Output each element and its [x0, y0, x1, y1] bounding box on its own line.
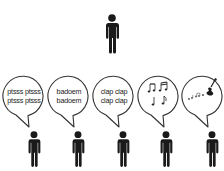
- person-5-icon: [203, 131, 221, 171]
- bubble-2-line1: badoem: [49, 87, 89, 96]
- bubble-3-line1: clap clap: [94, 87, 134, 96]
- speech-bubble-3: clap clap clap clap: [92, 75, 136, 129]
- speech-bubble-5: [181, 75, 224, 129]
- person-2-icon: [69, 131, 87, 171]
- speech-bubble-2: badoem badoem: [47, 75, 91, 129]
- bubble-1-line1: ptsss ptsss: [4, 87, 44, 96]
- bubble-3-text: clap clap clap clap: [94, 87, 134, 105]
- person-1-icon: [25, 131, 43, 171]
- person-3-icon: [114, 131, 132, 171]
- person-4-icon: [157, 131, 175, 171]
- top-person-icon: [103, 14, 121, 62]
- bubble-1-text: ptsss ptsss ptsss ptsss: [4, 87, 44, 105]
- bubble-2-text: badoem badoem: [49, 87, 89, 105]
- speech-bubble-1: ptsss ptsss ptsss ptsss: [2, 75, 46, 129]
- bubble-1-line2: ptsss ptsss: [4, 96, 44, 105]
- bubble-2-line2: badoem: [49, 96, 89, 105]
- speech-bubble-4: [137, 75, 181, 129]
- bubble-3-line2: clap clap: [94, 96, 134, 105]
